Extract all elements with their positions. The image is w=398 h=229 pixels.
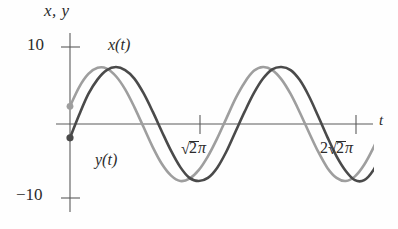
radical-vinculum — [189, 141, 199, 142]
initial-point-y — [67, 103, 74, 110]
plot-canvas — [0, 0, 398, 229]
x-tick-2-radical: √2 — [328, 140, 344, 156]
x-tick-2-label: 2√2π — [320, 140, 353, 156]
y-tick-positive-label: 10 — [27, 36, 44, 53]
curve-y-label: y(t) — [95, 152, 117, 168]
t-axis-label: t — [379, 113, 383, 128]
curve-x-label: x(t) — [108, 37, 130, 53]
radical-sign-icon: √ — [328, 141, 337, 157]
x-tick-1-radical: √2 — [181, 140, 197, 156]
x-tick-2-coefficient: 2 — [320, 139, 328, 156]
radical-sign-icon: √ — [181, 141, 190, 157]
radical-vinculum — [336, 141, 346, 142]
axis-title: x, y — [44, 2, 70, 19]
initial-point-x — [66, 134, 73, 141]
x-tick-1-label: √2π — [181, 140, 206, 156]
figure-container: x, y 10 −10 t x(t) y(t) √2π 2√2π — [0, 0, 398, 229]
y-tick-negative-label: −10 — [16, 186, 43, 203]
